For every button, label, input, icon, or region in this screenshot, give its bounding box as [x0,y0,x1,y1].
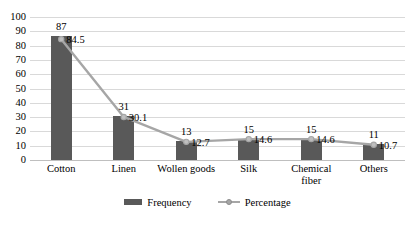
plot-area: 873113151511 84.530.112.714.614.610.7 [30,17,405,160]
y-tick-30: 30 [0,112,26,123]
line-marker-0 [59,37,64,42]
percentage-value-label-3: 14.6 [254,135,272,146]
x-tick-wollen-goods: Wollen goods [155,163,217,175]
bar-swatch-icon [124,199,142,205]
y-tick-20: 20 [0,126,26,137]
percentage-line-path [61,39,374,145]
y-axis-tick-labels: 0102030405060708090100 [0,17,26,160]
line-marker-4 [309,137,314,142]
percentage-value-label-2: 12.7 [191,138,209,149]
x-tick-cotton: Cotton [30,163,92,175]
x-tick-others: Others [343,163,405,175]
percentage-value-label-0: 84.5 [66,35,84,46]
legend-item-percentage[interactable]: Percentage [218,197,291,208]
bar-value-label-1: 31 [109,102,139,113]
chart-legend: Frequency Percentage [0,193,415,211]
line-marker-5 [371,142,376,147]
y-tick-100: 100 [0,12,26,23]
line-marker-icon [218,198,240,206]
line-marker-1 [121,114,126,119]
x-tick-chemical-fiber: Chemical fiber [280,163,342,187]
x-tick-linen: Linen [93,163,155,175]
x-axis-category-labels: CottonLinenWollen goodsSilkChemical fibe… [30,163,405,197]
x-tick-silk: Silk [218,163,280,175]
y-tick-0: 0 [0,155,26,166]
combo-bar-line-chart: 0102030405060708090100 873113151511 84.5… [0,0,415,226]
percentage-value-label-5: 10.7 [379,141,397,152]
y-tick-50: 50 [0,83,26,94]
gridline-0 [30,160,405,161]
percentage-value-label-1: 30.1 [129,113,147,124]
line-series-percentage [30,17,405,160]
legend-item-frequency[interactable]: Frequency [124,197,191,208]
y-tick-40: 40 [0,98,26,109]
y-tick-90: 90 [0,26,26,37]
bar-value-label-0: 87 [46,22,76,33]
line-marker-2 [184,139,189,144]
legend-label-percentage: Percentage [245,197,291,208]
y-tick-70: 70 [0,55,26,66]
y-tick-80: 80 [0,40,26,51]
y-tick-10: 10 [0,140,26,151]
legend-label-frequency: Frequency [147,197,191,208]
y-tick-60: 60 [0,69,26,80]
line-marker-3 [246,137,251,142]
percentage-value-label-4: 14.6 [316,135,334,146]
